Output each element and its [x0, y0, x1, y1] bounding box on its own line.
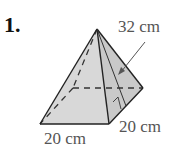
base-front-label: 20 cm — [44, 130, 86, 147]
base-side-label: 20 cm — [119, 118, 161, 135]
label-arrow — [121, 42, 145, 72]
slant-height-label: 32 cm — [118, 18, 160, 35]
